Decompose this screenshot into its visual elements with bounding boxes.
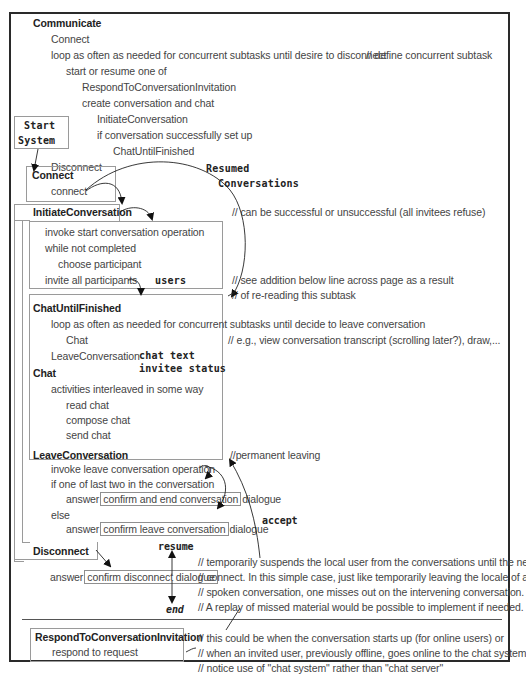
chat-until-finished-comment: // e.g., view conversation transcript (s… (228, 334, 500, 347)
initiate-comment: // see addition below line across page a… (232, 274, 453, 287)
separator-line (22, 619, 502, 620)
leave-line: if one of last two in the conversation (51, 478, 214, 491)
chat-line: read chat (66, 399, 109, 412)
respond-comment: // this could be when the conversation s… (198, 632, 504, 645)
initiate-line: while not completed (45, 242, 136, 255)
connect-body: connect (51, 185, 87, 198)
chat-title: Chat (33, 367, 56, 380)
answer-word: answer (50, 571, 83, 583)
users-label: users (155, 274, 186, 287)
leave-line: else (51, 509, 70, 522)
chat-line: compose chat (66, 414, 130, 427)
communicate-title: Communicate (33, 17, 101, 30)
communicate-line: create conversation and chat (82, 97, 214, 110)
communicate-line: loop as often as needed for concurrent s… (51, 49, 386, 62)
initiate-comment: // of re-reading this subtask (232, 289, 356, 302)
respond-title: RespondToConversationInvitation (35, 631, 203, 644)
leave-title: LeaveConversation (33, 449, 128, 462)
leave-line: invoke leave conversation operation (51, 463, 215, 476)
communicate-comment: // define concurrent subtask (366, 49, 492, 62)
resumed-label: Resumed (206, 162, 250, 175)
disconnect-comment: // connect. In this simple case, just li… (198, 571, 526, 584)
disconnect-comment: // spoken conversation, one misses out o… (198, 586, 524, 599)
communicate-line: InitiateConversation (97, 113, 188, 126)
leave-answer-row: answerconfirm leave conversationdialogue (66, 523, 268, 536)
dialogue-word: dialogue (242, 493, 281, 505)
resume-label: resume (158, 540, 194, 553)
communicate-line: RespondToConversationInvitation (82, 81, 236, 94)
chat-until-finished-line: Chat (66, 334, 88, 347)
initiate-line: invoke start conversation operation (45, 226, 204, 239)
accept-label: accept (262, 514, 298, 527)
respond-comment: // notice use of "chat system" rather th… (198, 662, 443, 675)
disconnect-title: Disconnect (33, 545, 89, 558)
answer-word: answer (66, 523, 99, 535)
chat-until-finished-line: LeaveConversation (51, 350, 140, 363)
communicate-line: Connect (51, 33, 89, 46)
confirm-end-dialogue[interactable]: confirm and end conversation (100, 492, 241, 506)
chat-until-finished-title: ChatUntilFinished (33, 302, 121, 315)
invitee-status-label: invitee status (139, 362, 226, 375)
leave-comment: //permanent leaving (230, 449, 320, 462)
communicate-line: ChatUntilFinished (113, 145, 194, 158)
respond-comment: // when an invited user, previously offl… (198, 647, 526, 660)
initiate-title: InitiateConversation (33, 206, 132, 219)
initiate-line: invite all participants (45, 274, 137, 287)
answer-word: answer (66, 493, 99, 505)
respond-body: respond to request (52, 646, 138, 659)
confirm-leave-dialogue[interactable]: confirm leave conversation (100, 522, 228, 536)
resumed-label: Conversations (218, 177, 299, 190)
chat-text-label: chat text (139, 349, 195, 362)
end-label: end (166, 603, 184, 616)
communicate-line: start or resume one of (66, 65, 167, 78)
communicate-line: if conversation successfully set up (97, 129, 252, 142)
initiate-comment: // can be successful or unsuccessful (al… (232, 206, 485, 219)
disconnect-answer-row: answerconfirm disconnect dialogue (50, 571, 219, 584)
disconnect-comment: // temporarily suspends the local user f… (198, 556, 526, 569)
leave-answer-row: answerconfirm and end conversationdialog… (66, 493, 281, 506)
chat-until-finished-line: loop as often as needed for concurrent s… (51, 318, 425, 331)
disconnect-comment: // A replay of missed material would be … (198, 601, 523, 614)
connect-title: Connect (32, 169, 73, 182)
initiate-line: choose participant (58, 258, 141, 271)
start-system-label: Start (24, 119, 55, 132)
start-system-label: System (18, 134, 55, 147)
chat-line: send chat (66, 429, 111, 442)
chat-line: activities interleaved in some way (51, 383, 203, 396)
